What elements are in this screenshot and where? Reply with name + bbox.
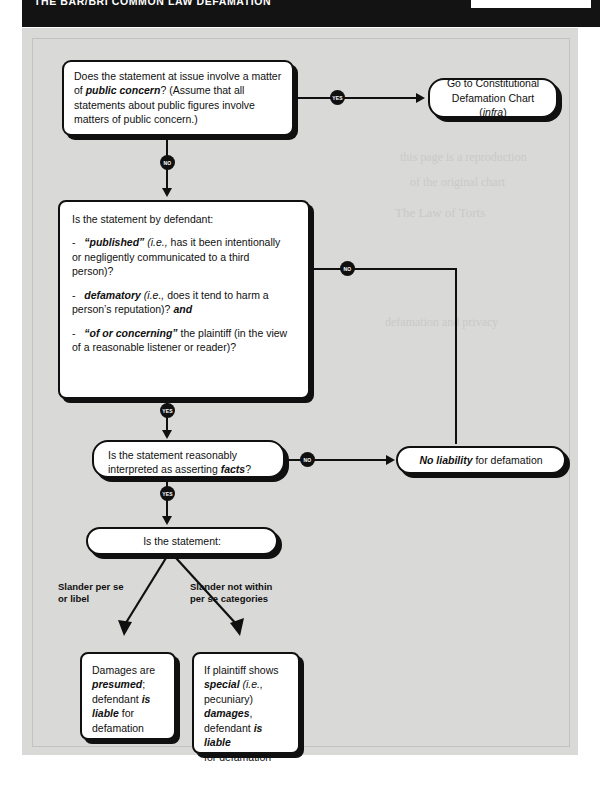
dp-l2-bold: presumed bbox=[92, 678, 142, 690]
edge-no3-arrowhead bbox=[386, 455, 395, 465]
sd-l5-pre: defendant bbox=[204, 722, 254, 734]
q2-b2-bold: defamatory bbox=[84, 289, 141, 301]
q1-line2-pre: of bbox=[74, 84, 86, 96]
q2-b2-dash: - bbox=[72, 289, 76, 301]
goto-line2-post: ) bbox=[503, 106, 507, 118]
node-no-liability[interactable]: No liability for defamation bbox=[396, 446, 566, 474]
edge-yes3-arrowhead bbox=[162, 516, 172, 525]
node-goto-constitutional-chart[interactable]: Go to Constitutional Defamation Chart (i… bbox=[428, 78, 558, 118]
page-title: THE BAR/BRI COMMON LAW DEFAMATION bbox=[34, 0, 271, 7]
q1-line3: statements about public figures involve bbox=[74, 99, 255, 111]
q3-line2-pre: interpreted as asserting bbox=[108, 463, 221, 475]
q1-line4: matters of public concern.) bbox=[74, 113, 198, 125]
branch-left-l1: Slander per se bbox=[58, 581, 123, 592]
q2-b1-line3: person)? bbox=[72, 265, 113, 277]
sd-l1: If plaintiff shows bbox=[204, 664, 279, 676]
q3-line2-bold: facts bbox=[221, 463, 246, 475]
edge-no2-vline bbox=[455, 268, 457, 444]
goto-line2-ital: infra bbox=[483, 106, 503, 118]
q2-b2-rest: does it tend to harm a bbox=[164, 289, 268, 301]
dp-l3-bold: is bbox=[142, 693, 151, 705]
branch-label-right: Slander not within per se categories bbox=[190, 581, 272, 606]
branch-right-l2: per se categories bbox=[190, 593, 268, 604]
node-is-statement[interactable]: Is the statement: bbox=[86, 527, 278, 555]
q1-line2-bold: public concern bbox=[86, 84, 161, 96]
dp-l5: defamation bbox=[92, 722, 144, 734]
sd-l4-bold: damages bbox=[204, 707, 250, 719]
badge-no-2: NO bbox=[340, 261, 355, 276]
node-public-concern-question[interactable]: Does the statement at issue involve a ma… bbox=[62, 60, 294, 136]
node-special-damages[interactable]: If plaintiff shows special (i.e., pecuni… bbox=[192, 652, 300, 754]
dp-l3-pre: defendant bbox=[92, 693, 142, 705]
q2-b1-ital: (i.e., bbox=[147, 236, 167, 248]
noliab-bold: No liability bbox=[419, 454, 472, 466]
node-elements-question[interactable]: Is the statement by defendant: - “publis… bbox=[58, 200, 310, 399]
node-damages-presumed[interactable]: Damages are presumed; defendant is liabl… bbox=[80, 652, 176, 740]
edge-no2-hline bbox=[312, 268, 457, 270]
edge-yes2-arrowhead bbox=[162, 430, 172, 439]
sd-l2-ital: (i.e., bbox=[240, 678, 263, 690]
q1-line2-post: ? (Assume that all bbox=[160, 84, 244, 96]
branch-label-left: Slander per se or libel bbox=[58, 581, 123, 606]
q2-b2-line2-pre: person’s reputation)? bbox=[72, 303, 173, 315]
header-bar: THE BAR/BRI COMMON LAW DEFAMATION bbox=[22, 0, 600, 27]
sd-l2-bold: special bbox=[204, 678, 240, 690]
goto-line1: Go to Constitutional bbox=[447, 77, 539, 89]
badge-yes-2: YES bbox=[160, 403, 175, 418]
q2-b1-rest: has it been intentionally bbox=[168, 236, 281, 248]
edge-no1-arrowhead bbox=[162, 188, 172, 197]
badge-yes-1: YES bbox=[330, 90, 345, 105]
q3-line2-post: ? bbox=[245, 463, 251, 475]
dp-l4-post: for bbox=[119, 707, 134, 719]
sd-l6: for defamation bbox=[204, 751, 271, 763]
q3-line1: Is the statement reasonably bbox=[108, 449, 237, 461]
q2-b3-bold: “of or concerning” bbox=[84, 327, 177, 339]
dp-l4-bold: liable bbox=[92, 707, 119, 719]
dp-l1: Damages are bbox=[92, 664, 155, 676]
q2-b3-dash: - bbox=[72, 327, 76, 339]
branch-left-l2: or libel bbox=[58, 593, 89, 604]
q4-text: Is the statement: bbox=[143, 534, 221, 548]
q2-b1-line2: or negligently communicated to a third bbox=[72, 251, 249, 263]
q2-b3-rest: the plaintiff (in the view bbox=[178, 327, 288, 339]
noliab-rest: for defamation bbox=[473, 454, 543, 466]
q2-b2-ital: (i.e., bbox=[144, 289, 164, 301]
q2-heading: Is the statement by defendant: bbox=[72, 213, 213, 225]
dp-l2-post: ; bbox=[142, 678, 145, 690]
q2-b1-dash: - bbox=[72, 236, 76, 248]
q1-line1: Does the statement at issue involve a ma… bbox=[74, 70, 281, 82]
defamation-flowchart-page: THE BAR/BRI COMMON LAW DEFAMATION this p… bbox=[0, 0, 600, 809]
sd-l4-post: , bbox=[250, 707, 253, 719]
q2-b3-line2: of a reasonable listener or reader)? bbox=[72, 341, 236, 353]
node-facts-question[interactable]: Is the statement reasonably interpreted … bbox=[92, 440, 285, 478]
badge-no-3: NO bbox=[300, 452, 315, 467]
q2-b1-bold: “published” bbox=[84, 236, 144, 248]
badge-no-1: NO bbox=[160, 155, 175, 170]
edge-yes1-arrowhead bbox=[416, 93, 425, 103]
header-tab bbox=[470, 0, 592, 9]
sd-l3: pecuniary) bbox=[204, 693, 253, 705]
branch-right-l1: Slander not within bbox=[190, 581, 272, 592]
q2-b2-line2-bold: and bbox=[173, 303, 192, 315]
edge-yes1-line bbox=[296, 97, 418, 99]
badge-yes-3: YES bbox=[160, 486, 175, 501]
